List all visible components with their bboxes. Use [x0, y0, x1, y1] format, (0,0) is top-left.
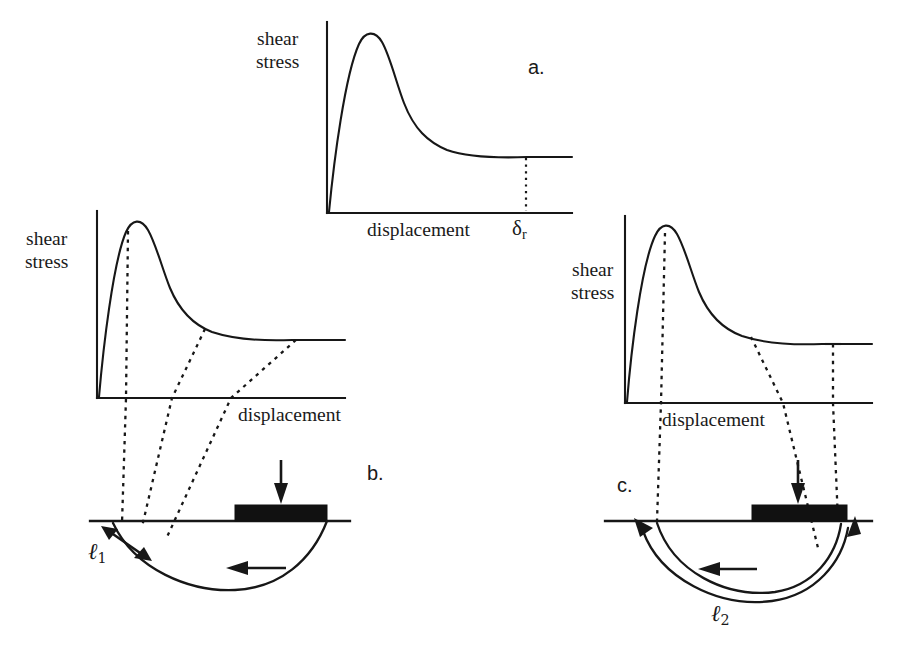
panel-c-graph	[625, 216, 872, 548]
ell-glyph-1: ℓ	[88, 538, 98, 564]
panel-a-y-axis-label-line1: shear	[256, 28, 299, 51]
panel-c-footing-diagram	[605, 460, 872, 602]
ell-subscript-1: 1	[98, 550, 107, 566]
panel-c-slip-inner-head-right	[847, 516, 861, 537]
panel-c-y-axis-label-line2: stress	[571, 282, 614, 305]
panel-a-tag: a.	[528, 56, 545, 79]
panel-c-x-axis-label: displacement	[662, 409, 765, 432]
panel-b-projector-2	[142, 329, 205, 527]
panel-c-y-axis-label-line1: shear	[571, 259, 614, 282]
panel-b-shear-direction-head	[226, 561, 248, 575]
panel-b-projector-1	[122, 231, 128, 523]
panel-c-shear-direction-head	[698, 562, 720, 576]
ell-subscript-2: 2	[721, 612, 730, 628]
panel-b-load-arrow-head	[274, 483, 288, 504]
panel-a-y-axis-label: shear stress	[256, 28, 299, 73]
panel-b-stress-curve	[99, 222, 345, 397]
delta-glyph: δ	[512, 216, 522, 240]
panel-a-graph	[327, 22, 572, 213]
panel-a-y-axis-label-line2: stress	[256, 51, 299, 74]
panel-c-projector-1	[657, 233, 665, 521]
panel-b-y-axis-label-line1: shear	[25, 228, 68, 251]
panel-c-slip-surface-outer	[657, 523, 841, 593]
panel-b-footing-block	[235, 505, 327, 521]
panel-b-graph	[97, 211, 345, 537]
panel-b-y-axis-label: shear stress	[25, 228, 68, 273]
ell-glyph-2: ℓ	[711, 600, 721, 626]
panel-a-x-axis-label: displacement	[367, 219, 470, 242]
panel-b-footing-diagram	[90, 460, 350, 590]
panel-b-y-axis-label-line2: stress	[25, 251, 68, 274]
panel-b-length-label: ℓ1	[88, 538, 107, 567]
panel-a-residual-displacement-symbol: δr	[512, 216, 527, 243]
panel-c-load-arrow-head	[791, 483, 805, 504]
delta-subscript: r	[522, 226, 527, 242]
figure-root: shear stress displacement a. δr shear st…	[0, 0, 917, 654]
panel-b-l1-measure-shaft	[110, 532, 143, 555]
panel-b-tag: b.	[367, 462, 384, 485]
panel-b-x-axis-label: displacement	[238, 404, 341, 427]
panel-c-length-label: ℓ2	[711, 600, 730, 629]
figure-canvas	[0, 0, 917, 654]
panel-c-tag: c.	[617, 474, 633, 497]
panel-c-projector-3	[833, 344, 838, 521]
panel-c-y-axis-label: shear stress	[571, 259, 614, 304]
panel-c-footing-block	[752, 505, 847, 521]
